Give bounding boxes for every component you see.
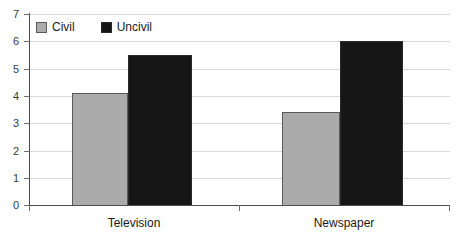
y-tick-mark-5 <box>24 69 30 70</box>
legend-entry-civil: Civil <box>36 21 75 33</box>
legend-label-civil: Civil <box>52 21 75 33</box>
y-tick-label-3: 3 <box>0 118 19 129</box>
y-tick-mark-1 <box>24 178 30 179</box>
legend-label-uncivil: Uncivil <box>117 21 152 33</box>
y-tick-label-2: 2 <box>0 146 19 157</box>
x-tick-mark-middle <box>239 205 240 211</box>
y-tick-label-6: 6 <box>0 36 19 47</box>
y-tick-mark-4 <box>24 96 30 97</box>
bar-civil-newspaper <box>282 112 340 206</box>
x-tick-label-television: Television <box>29 216 239 230</box>
legend-entry-uncivil: Uncivil <box>101 21 152 33</box>
y-tick-label-1: 1 <box>0 173 19 184</box>
y-tick-label-7: 7 <box>0 9 19 20</box>
bar-uncivil-television <box>128 55 192 206</box>
y-tick-mark-6 <box>24 41 30 42</box>
bar-uncivil-newspaper <box>340 41 403 206</box>
x-tick-mark-right <box>449 205 450 211</box>
bar-chart: 7 6 5 4 3 2 1 0 Television Newspaper Civ… <box>0 0 457 241</box>
x-tick-label-newspaper: Newspaper <box>239 216 449 230</box>
x-tick-mark-left <box>29 205 30 211</box>
gray-square-swatch-icon <box>36 22 47 33</box>
chart-legend: Civil Uncivil <box>36 21 152 33</box>
y-tick-label-5: 5 <box>0 64 19 75</box>
black-square-swatch-icon <box>101 22 112 33</box>
gridline-7 <box>29 14 450 15</box>
y-tick-mark-7 <box>24 14 30 15</box>
y-tick-label-4: 4 <box>0 91 19 102</box>
y-tick-mark-3 <box>24 123 30 124</box>
bar-civil-television <box>72 93 128 206</box>
y-tick-label-0: 0 <box>0 200 19 211</box>
y-tick-mark-2 <box>24 151 30 152</box>
